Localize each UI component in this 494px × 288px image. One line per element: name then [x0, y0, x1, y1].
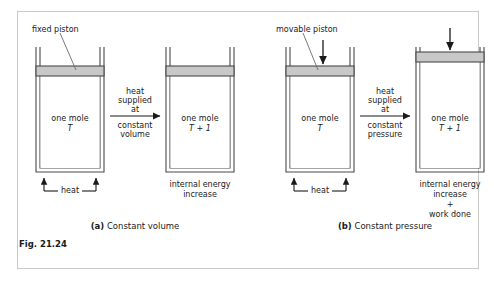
panel-b-process-line-4: pressure: [368, 130, 403, 140]
panel-b-caption: (b) Constant pressure: [338, 222, 432, 232]
panel-a-right-cylinder: [166, 47, 234, 172]
panel-b-left-contents-line1: one mole: [301, 114, 338, 124]
panel-a-right-contents-line2: T + 1: [189, 124, 211, 134]
panel-a-left-cylinder: [36, 47, 104, 172]
panel-a-caption-text: Constant volume: [107, 221, 179, 231]
figure-container: fixed piston one mole T heat heat suppli…: [0, 0, 494, 288]
panel-b-movable-piston: [286, 66, 354, 76]
diagram-canvas: [0, 0, 494, 288]
panel-b-caption-prefix: (b): [338, 221, 352, 231]
panel-b-right-cylinder: [416, 47, 484, 172]
panel-a-right-contents-line1: one mole: [181, 114, 218, 124]
panel-b-result-line-2: +: [447, 200, 454, 210]
panel-b-heat-label: heat: [311, 186, 329, 196]
panel-a-left-contents-line2: T: [68, 124, 73, 134]
panel-b-result-line-0: internal energy: [419, 180, 480, 190]
panel-b-process-line-2: at: [381, 105, 389, 115]
panel-b-caption-text: Constant pressure: [354, 221, 432, 231]
panel-a-piston-label: fixed piston: [32, 25, 79, 35]
leader-line-icon-b: [303, 33, 318, 70]
panel-a-caption: (a) Constant volume: [91, 222, 180, 232]
panel-b-result-line-3: work done: [429, 210, 471, 220]
panel-b-right-piston: [416, 52, 484, 62]
panel-b-right-contents-line1: one mole: [431, 114, 468, 124]
panel-a-result-line-1: increase: [183, 190, 217, 200]
panel-a-right-piston: [166, 66, 234, 76]
panel-a-result-line-0: internal energy: [169, 180, 230, 190]
panel-a-fixed-piston: [36, 66, 104, 76]
leader-line-icon-a: [60, 33, 76, 70]
panel-a-process-line-2: at: [131, 105, 139, 115]
panel-a-caption-prefix: (a): [91, 221, 105, 231]
panel-b-right-contents-line2: T + 1: [439, 124, 461, 134]
figure-number: Fig. 21.24: [19, 240, 67, 250]
panel-b-left-contents-line2: T: [318, 124, 323, 134]
panel-a-left-contents-line1: one mole: [51, 114, 88, 124]
panel-a-process-line-4: volume: [120, 130, 150, 140]
panel-b-left-cylinder: [286, 47, 354, 172]
panel-b-result-line-1: increase: [433, 190, 467, 200]
panel-a-heat-label: heat: [61, 186, 79, 196]
panel-b-piston-label: movable piston: [276, 25, 338, 35]
